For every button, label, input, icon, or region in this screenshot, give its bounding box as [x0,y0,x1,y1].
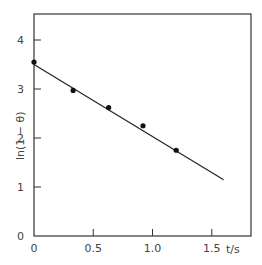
fit-line [34,65,224,180]
chart: 01234 00.51.01.5 t/s ln(1 − θ) [0,0,262,265]
y-tick-label: 0 [17,230,24,243]
x-tick-label: 1.5 [203,242,221,255]
x-tick-label: 1.0 [144,242,162,255]
data-point [71,88,76,93]
x-tick-label: 0.5 [85,242,103,255]
x-axis: 00.51.01.5 [31,229,221,255]
x-tick-label: 0 [31,242,38,255]
data-point [31,59,36,64]
y-tick-label: 1 [17,181,24,194]
x-axis-label: t/s [226,243,240,256]
y-axis-label: ln(1 − θ) [14,111,27,160]
data-point [106,105,111,110]
y-tick-label: 3 [17,83,24,96]
data-point [174,148,179,153]
regression-line [34,65,224,180]
data-point [140,123,145,128]
y-tick-label: 4 [17,34,24,47]
